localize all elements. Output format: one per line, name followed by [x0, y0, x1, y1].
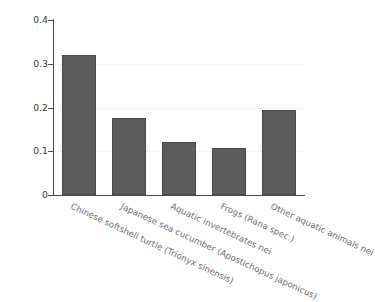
y-axis-tick-label: 0.3 [22, 59, 48, 68]
bar [262, 110, 296, 195]
y-axis-tick-label: 0.1 [22, 146, 48, 155]
bar-series [54, 20, 304, 195]
bar [212, 148, 246, 195]
bar [112, 118, 146, 195]
bar [62, 55, 96, 195]
y-axis-tick-label: 0.4 [22, 15, 48, 24]
y-axis-tick-label: 0.2 [22, 103, 48, 112]
x-axis-category-labels: Chinese softshell turtle (Trionyx sinens… [0, 196, 348, 302]
bar [162, 142, 196, 195]
